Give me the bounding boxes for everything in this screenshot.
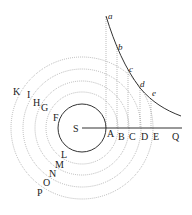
label-e-lower: e: [152, 88, 156, 98]
label-i: I: [27, 89, 30, 100]
diagram-canvas: S A B C D E Q a b c d e K I H G F L M N …: [0, 0, 192, 215]
label-p: P: [37, 187, 43, 198]
label-q: Q: [172, 131, 180, 142]
label-k: K: [13, 86, 21, 97]
diagram: S A B C D E Q a b c d e K I H G F L M N …: [0, 0, 192, 215]
label-o: O: [43, 177, 50, 188]
label-b-lower: b: [118, 42, 123, 52]
label-s: S: [73, 123, 79, 134]
label-f: F: [53, 112, 59, 123]
label-c: C: [129, 131, 136, 142]
label-d-lower: d: [140, 79, 145, 89]
label-d: D: [141, 131, 148, 142]
label-m: M: [55, 159, 64, 170]
label-a: A: [107, 128, 115, 139]
label-e: E: [153, 131, 159, 142]
label-a-lower: a: [108, 11, 113, 21]
label-h: H: [33, 97, 40, 108]
label-c-lower: c: [129, 64, 133, 74]
label-b: B: [118, 131, 125, 142]
label-g: G: [41, 102, 48, 113]
